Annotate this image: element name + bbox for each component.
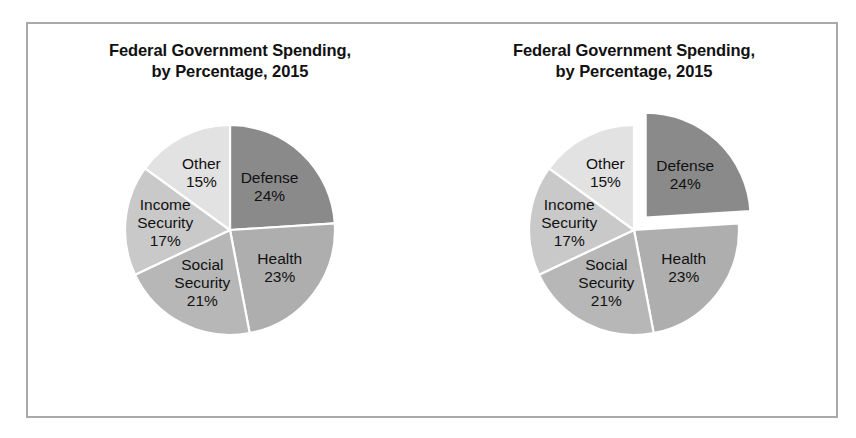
pie-panels: Federal Government Spending, by Percenta… xyxy=(28,24,836,416)
pie-slice-label-other: Other15% xyxy=(182,155,221,190)
right-chart-title-line2: by Percentage, 2015 xyxy=(432,61,836,82)
right-pie-svg: Defense24%Health23%SocialSecurity21%Inco… xyxy=(484,100,784,360)
right-chart-title: Federal Government Spending, by Percenta… xyxy=(432,40,836,82)
right-pie-panel: Federal Government Spending, by Percenta… xyxy=(432,24,836,416)
left-pie-svg: Defense24%Health23%SocialSecurity21%Inco… xyxy=(80,100,380,360)
figure-frame: Federal Government Spending, by Percenta… xyxy=(26,22,838,418)
figure-canvas: Federal Government Spending, by Percenta… xyxy=(0,0,856,438)
pie-slice-label-other: Other15% xyxy=(586,155,625,190)
left-chart-title-line1: Federal Government Spending, xyxy=(28,40,432,61)
left-pie-panel: Federal Government Spending, by Percenta… xyxy=(28,24,432,416)
left-chart-title-line2: by Percentage, 2015 xyxy=(28,61,432,82)
left-pie-chart: Defense24%Health23%SocialSecurity21%Inco… xyxy=(80,100,380,360)
right-chart-title-line1: Federal Government Spending, xyxy=(432,40,836,61)
right-pie-chart: Defense24%Health23%SocialSecurity21%Inco… xyxy=(484,100,784,360)
left-chart-title: Federal Government Spending, by Percenta… xyxy=(28,40,432,82)
